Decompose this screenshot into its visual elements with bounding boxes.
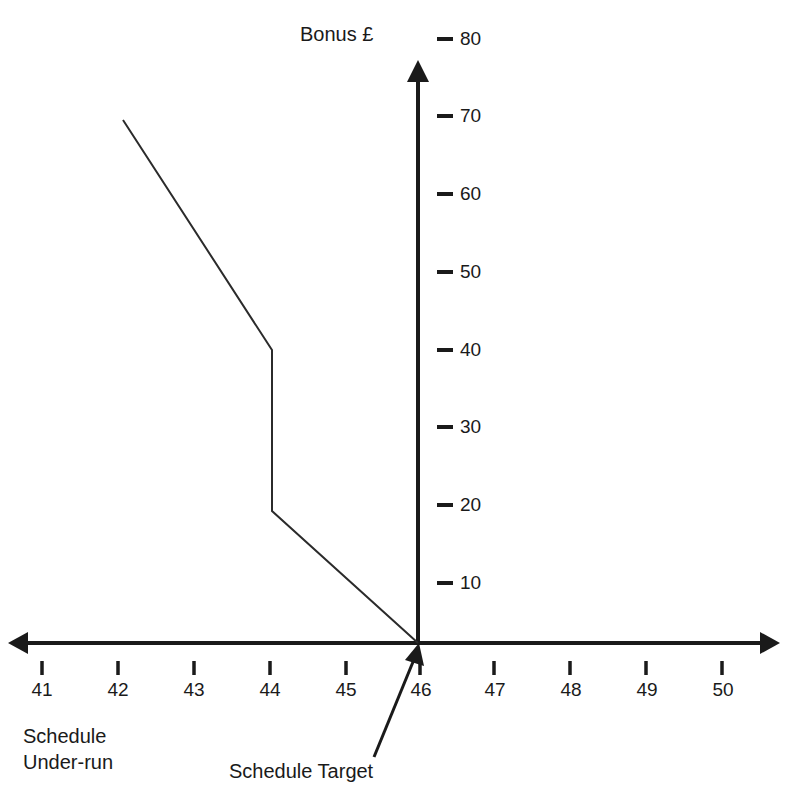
x-tick-label-44: 44 [259,680,280,699]
y-tick-label-20: 20 [460,495,481,514]
y-axis [407,60,429,643]
chart-canvas: Bonus £ 80 70 60 50 40 30 20 10 41 42 43… [0,0,803,808]
y-tick-label-70: 70 [460,106,481,125]
y-tick-label-50: 50 [460,262,481,281]
x-tick-label-46: 46 [410,680,431,699]
schedule-target-pointer-arrowhead [405,643,424,666]
x-tick-label-49: 49 [636,680,657,699]
bonus-schedule-line [123,120,418,643]
schedule-target-pointer-line [374,657,415,757]
x-tick-label-48: 48 [560,680,581,699]
y-tick-label-60: 60 [460,184,481,203]
y-tick-label-40: 40 [460,340,481,359]
x-axis-arrowhead-left [8,632,28,654]
x-tick-label-50: 50 [712,680,733,699]
x-tick-label-41: 41 [31,680,52,699]
annotation-schedule-under-run-line2: Under-run [23,749,113,775]
annotation-schedule-target: Schedule Target [229,758,373,784]
y-tick-label-30: 30 [460,417,481,436]
x-axis-arrowhead-right [760,632,780,654]
x-axis-ticks [42,661,722,675]
annotation-schedule-under-run-line1: Schedule [23,723,106,749]
x-tick-label-45: 45 [335,680,356,699]
y-axis-arrowhead-up [407,60,429,82]
schedule-target-pointer [374,643,424,757]
y-axis-ticks [437,39,453,583]
x-tick-label-42: 42 [107,680,128,699]
y-tick-label-10: 10 [460,573,481,592]
y-axis-title: Bonus £ [300,24,373,44]
x-axis [8,632,780,654]
x-tick-label-47: 47 [484,680,505,699]
x-tick-label-43: 43 [183,680,204,699]
y-tick-label-80: 80 [460,29,481,48]
